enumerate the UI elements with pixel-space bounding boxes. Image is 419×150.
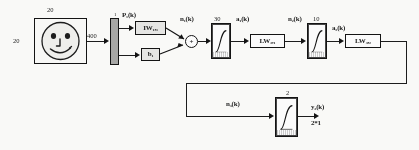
transfer-function-layer2 <box>307 23 327 59</box>
routing-left-vertical <box>186 83 187 116</box>
routing-to-tf3-line <box>186 116 270 117</box>
tf1-texture <box>213 52 229 57</box>
log-sigmoid-icon <box>276 98 297 136</box>
block-lw32-label: LW₃,₂ <box>355 38 371 45</box>
p1-to-iw-arrowhead <box>129 25 134 31</box>
signal-n1-label: n₁(k) <box>180 16 194 23</box>
transfer-function-layer3 <box>275 97 298 137</box>
routing-right-vertical <box>406 41 407 83</box>
block-lw21-label: LW₂,₁ <box>260 38 276 45</box>
signal-n3-label: n₃(k) <box>226 101 240 108</box>
summing-junction: + <box>185 35 198 48</box>
signal-a1-label: a₁(k) <box>236 16 249 23</box>
summing-junction-label: + <box>190 38 194 46</box>
tf1-to-lw21-line <box>231 41 245 42</box>
routing-to-tf3-arrowhead <box>269 113 274 119</box>
block-lw32: LW₃,₂ <box>345 34 381 48</box>
input-to-bar-arrowhead <box>104 38 109 44</box>
signal-n2-label: n₂(k) <box>288 16 302 23</box>
layer3-size-label: 2 <box>286 90 289 97</box>
lw32-out-line <box>381 41 407 42</box>
log-sigmoid-icon <box>308 24 326 58</box>
tf2-texture <box>309 52 325 57</box>
lw21-to-tf2-line <box>285 41 302 42</box>
block-iw: IW₁,₁ <box>135 21 166 35</box>
output-dimension-label: 2*1 <box>311 120 321 127</box>
signal-y3-label: y₃(k) <box>311 104 324 111</box>
input-image-left-dimension-label: 20 <box>13 38 20 45</box>
block-bias: b₁ <box>141 48 160 61</box>
block-iw-label: IW₁,₁ <box>143 25 158 32</box>
input-bar-count-label: 1 <box>114 12 117 17</box>
block-lw21: LW₂,₁ <box>250 34 285 48</box>
tf3-texture <box>277 130 296 135</box>
p1-to-bias-arrowhead <box>135 52 140 58</box>
transfer-function-layer1 <box>211 23 231 59</box>
layer1-size-label: 30 <box>214 16 221 23</box>
layer2-size-label: 10 <box>313 16 320 23</box>
input-vector-bar <box>110 18 119 65</box>
input-to-bar-line <box>87 41 105 42</box>
tf3-output-arrowhead <box>314 113 319 119</box>
routing-bottom-horizontal <box>186 83 407 84</box>
input-face-image <box>34 18 87 64</box>
tf2-to-lw32-arrowhead <box>339 38 344 44</box>
p1-to-bias-line <box>119 55 136 56</box>
signal-p1-label: P₁(k) <box>122 12 136 19</box>
input-vector-size-label: 400 <box>87 33 97 40</box>
signal-a2-label: a₂(k) <box>332 25 345 32</box>
lw21-to-tf2-arrowhead <box>301 38 306 44</box>
input-image-top-dimension-label: 20 <box>47 7 54 14</box>
log-sigmoid-icon <box>212 24 230 58</box>
block-bias-label: b₁ <box>148 51 154 58</box>
diagram-canvas: 20 20 400 1 P₁(k) IW₁,₁ b₁ <box>0 0 419 150</box>
smiley-face-icon <box>35 19 86 63</box>
tf1-to-lw21-arrowhead <box>244 38 249 44</box>
tf3-output-line <box>298 116 315 117</box>
